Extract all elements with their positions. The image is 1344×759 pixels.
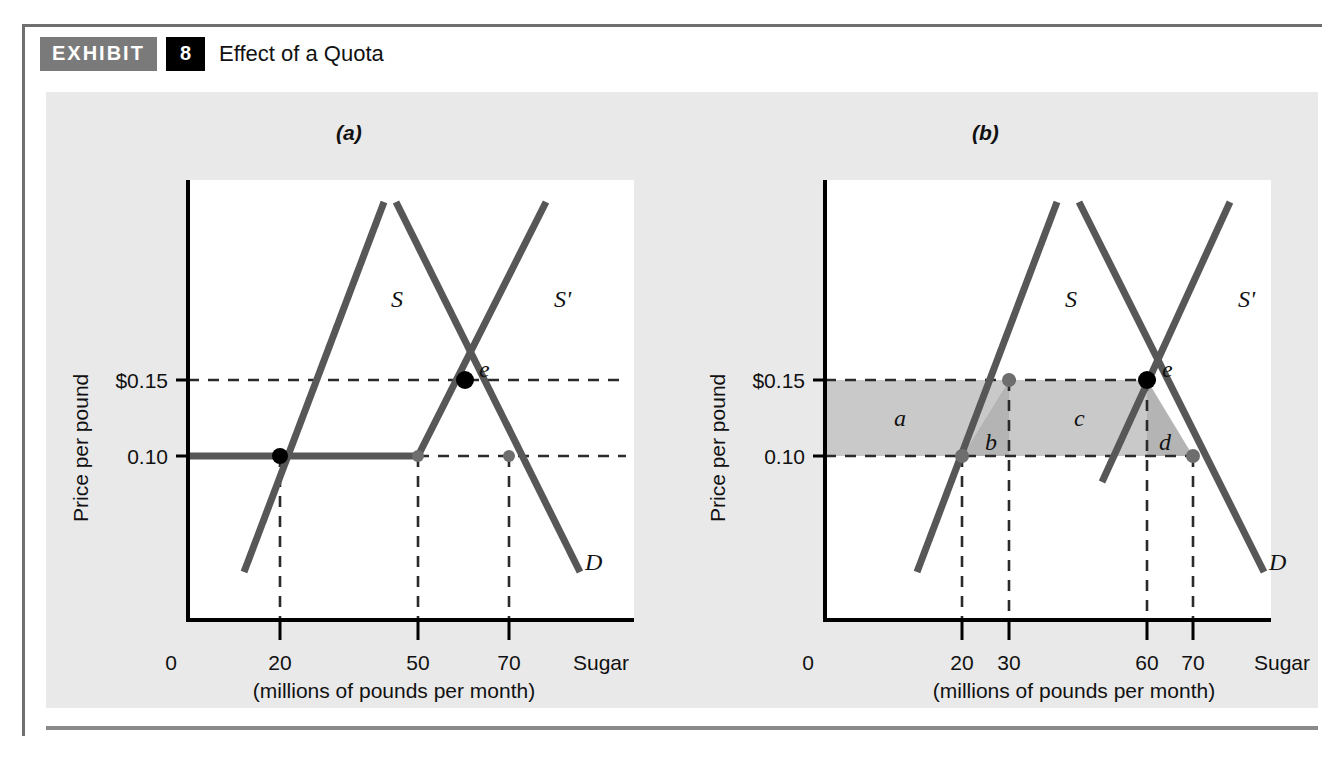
x-axis-subtitle-b: (millions of pounds per month) xyxy=(933,679,1215,702)
chart-panel-a: (a) S S' D e $0.15 xyxy=(46,92,682,708)
xtick-label-20-a: 20 xyxy=(268,651,291,674)
x-axis-subtitle-a: (millions of pounds per month) xyxy=(253,679,535,702)
point-equilibrium-e-a xyxy=(456,371,474,389)
footer-rule xyxy=(46,726,1318,730)
supply-prime-label-a: S' xyxy=(554,286,572,312)
xtick-label-60-b: 60 xyxy=(1135,651,1158,674)
region-a-label: a xyxy=(894,405,906,431)
region-d-label: d xyxy=(1159,429,1172,455)
exhibit-header: EXHIBIT 8 Effect of a Quota xyxy=(40,36,384,72)
ytick-label-010-a: 0.10 xyxy=(127,445,168,468)
region-c-label: c xyxy=(1074,405,1085,431)
figure-area: (a) S S' D e $0.15 xyxy=(46,92,1318,708)
point-quota-kink-a xyxy=(412,450,424,462)
page-title: Effect of a Quota xyxy=(219,41,384,67)
x-axis-title-a: Sugar xyxy=(573,651,629,674)
xtick-label-70-b: 70 xyxy=(1181,651,1204,674)
plot-area-a xyxy=(188,180,634,620)
ytick-label-010-b: 0.10 xyxy=(764,445,805,468)
demand-label-a: D xyxy=(584,549,602,575)
equilibrium-label-a: e xyxy=(479,356,490,382)
y-axis-title-a: Price per pound xyxy=(69,374,92,522)
xtick-label-50-a: 50 xyxy=(406,651,429,674)
xtick-label-0-b: 0 xyxy=(802,651,814,674)
xtick-label-70-a: 70 xyxy=(497,651,520,674)
ytick-label-015-b: $0.15 xyxy=(752,369,805,392)
y-axis-title-b: Price per pound xyxy=(706,374,729,522)
point-equilibrium-e-b xyxy=(1138,371,1156,389)
x-axis-title-b: Sugar xyxy=(1254,651,1310,674)
xtick-label-0-a: 0 xyxy=(165,651,177,674)
exhibit-number-badge: 8 xyxy=(166,37,205,71)
chart-panel-b: (b) xyxy=(682,92,1318,708)
point-domestic-supply-a xyxy=(272,448,288,464)
ytick-label-015-a: $0.15 xyxy=(115,369,168,392)
equilibrium-label-b: e xyxy=(1162,356,1173,382)
point-domestic-supply-b xyxy=(955,449,969,463)
panel-b-label: (b) xyxy=(972,121,999,144)
demand-label-b: D xyxy=(1268,549,1286,575)
panel-a-label: (a) xyxy=(336,121,362,144)
supply-label-a: S xyxy=(391,286,403,312)
point-demand-world-b xyxy=(1186,449,1200,463)
xtick-label-30-b: 30 xyxy=(997,651,1020,674)
point-domestic-supply-quota-b xyxy=(1002,373,1016,387)
point-demand-world-a xyxy=(503,450,515,462)
supply-label-b: S xyxy=(1065,286,1077,312)
supply-prime-label-b: S' xyxy=(1238,286,1256,312)
xtick-label-20-b: 20 xyxy=(950,651,973,674)
region-b-label: b xyxy=(985,429,997,455)
exhibit-word-badge: EXHIBIT xyxy=(40,37,157,71)
